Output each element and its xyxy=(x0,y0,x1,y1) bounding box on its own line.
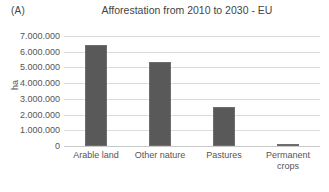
x-axis-tick-label: Arable land xyxy=(64,150,128,161)
x-axis-tick-label: Other nature xyxy=(128,150,192,161)
panel-label: (A) xyxy=(11,5,25,16)
y-axis-tick-label: 1.000.000 xyxy=(2,126,60,135)
y-axis-tick-label: 0 xyxy=(2,142,60,151)
plot-area xyxy=(64,36,320,146)
y-axis-tick-label: 4.000.000 xyxy=(2,79,60,88)
x-axis-tick-label: Permanent crops xyxy=(256,150,320,172)
bar xyxy=(277,144,299,146)
bar xyxy=(213,107,235,146)
x-axis-tick-label: Pastures xyxy=(192,150,256,161)
gridline xyxy=(64,36,320,37)
bar xyxy=(85,45,107,146)
y-axis-tick-label: 2.000.000 xyxy=(2,110,60,119)
bar xyxy=(149,62,171,146)
y-axis-tick-label: 5.000.000 xyxy=(2,63,60,72)
y-axis-tick-label: 7.000.000 xyxy=(2,32,60,41)
y-axis-tick-label: 6.000.000 xyxy=(2,47,60,56)
chart-title: Afforestation from 2010 to 2030 - EU xyxy=(62,4,312,16)
y-axis-tick-labels: 7.000.0006.000.0005.000.0004.000.0003.00… xyxy=(0,36,60,146)
axis-baseline xyxy=(64,146,320,147)
afforestation-bar-chart: (A) Afforestation from 2010 to 2030 - EU… xyxy=(0,0,329,192)
y-axis-tick-label: 3.000.000 xyxy=(2,94,60,103)
